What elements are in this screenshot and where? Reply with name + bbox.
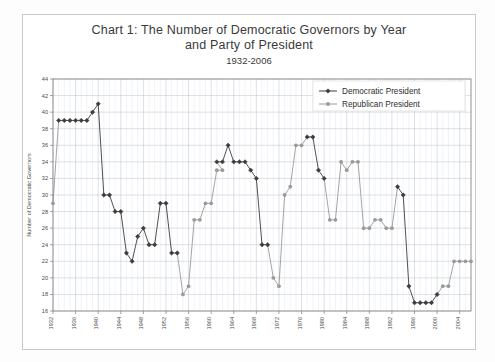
x-tick-label: 1956 <box>184 317 190 329</box>
data-point <box>107 193 111 197</box>
data-point <box>232 160 236 164</box>
y-tick-label: 32 <box>42 175 48 181</box>
data-point <box>469 259 473 263</box>
x-tick-label: 1992 <box>387 317 393 329</box>
data-point <box>209 201 213 205</box>
y-tick-label: 26 <box>42 225 48 231</box>
x-tick-label: 1960 <box>206 317 212 329</box>
x-tick-label: 1936 <box>71 317 77 329</box>
y-tick-label: 40 <box>42 109 48 115</box>
data-point <box>379 218 383 222</box>
x-tick-label: 1944 <box>116 317 122 329</box>
y-tick-label: 34 <box>42 159 48 165</box>
data-point <box>204 201 208 205</box>
data-point <box>147 243 151 247</box>
data-point <box>339 160 343 164</box>
data-point <box>350 160 354 164</box>
data-point <box>119 209 123 213</box>
data-point <box>164 201 168 205</box>
y-tick-label: 28 <box>42 209 48 215</box>
data-point <box>215 168 219 172</box>
data-point <box>113 209 117 213</box>
x-tick-label: 1996 <box>410 317 416 329</box>
data-point <box>458 259 462 263</box>
legend-label: Democratic President <box>342 87 421 96</box>
y-tick-label: 18 <box>42 291 48 297</box>
data-point <box>237 160 241 164</box>
y-tick-label: 44 <box>42 76 48 82</box>
data-point <box>181 293 185 297</box>
series-democratic-president <box>56 102 439 305</box>
data-point <box>226 143 230 147</box>
data-point <box>367 226 371 230</box>
chart-container: Chart 1: The Number of Democratic Govern… <box>22 14 476 350</box>
data-point <box>68 118 72 122</box>
legend-marker <box>326 102 330 106</box>
x-tick-label: 1988 <box>364 317 370 329</box>
data-point <box>447 284 451 288</box>
x-tick-label: 1984 <box>342 317 348 329</box>
data-point <box>62 118 66 122</box>
y-axis-title-text: Number of Democratic Governors <box>26 153 32 237</box>
data-point <box>356 160 360 164</box>
data-point <box>441 284 445 288</box>
x-axis-ticks: 1932193619401944194819521956196019641968… <box>48 311 461 329</box>
data-point <box>294 143 298 147</box>
y-tick-label: 42 <box>42 93 48 99</box>
x-tick-label: 2004 <box>455 317 461 329</box>
x-tick-label: 2000 <box>432 317 438 329</box>
chart-legend: Democratic PresidentRepublican President <box>313 81 465 111</box>
data-point <box>79 118 83 122</box>
data-point <box>152 243 156 247</box>
data-point <box>187 284 191 288</box>
x-tick-label: 1952 <box>161 317 167 329</box>
data-point <box>102 193 106 197</box>
data-point <box>452 259 456 263</box>
data-point <box>192 218 196 222</box>
data-point <box>283 193 287 197</box>
data-point <box>56 118 60 122</box>
x-tick-label: 1932 <box>48 317 54 329</box>
data-point <box>384 226 388 230</box>
data-point <box>265 243 269 247</box>
data-point <box>362 226 366 230</box>
data-point <box>51 201 55 205</box>
y-tick-label: 38 <box>42 126 48 132</box>
data-point <box>221 168 225 172</box>
data-point <box>175 251 179 255</box>
y-axis-ticks: 161820222426283032343638404244 <box>42 76 53 314</box>
data-point <box>412 301 416 305</box>
x-tick-label: 1964 <box>229 317 235 329</box>
page-root: Chart 1: The Number of Democratic Govern… <box>0 0 495 362</box>
data-point <box>334 218 338 222</box>
x-tick-label: 1948 <box>138 317 144 329</box>
data-point <box>407 284 411 288</box>
data-point <box>169 251 173 255</box>
data-point <box>73 118 77 122</box>
y-tick-label: 22 <box>42 258 48 264</box>
x-tick-label: 1976 <box>297 317 303 329</box>
y-tick-label: 24 <box>42 242 48 248</box>
data-point <box>418 301 422 305</box>
data-point <box>300 143 304 147</box>
y-tick-label: 16 <box>42 308 48 314</box>
data-point <box>288 185 292 189</box>
y-tick-label: 36 <box>42 142 48 148</box>
data-point <box>424 301 428 305</box>
data-point <box>311 135 315 139</box>
data-point <box>260 243 264 247</box>
data-point <box>215 160 219 164</box>
data-point <box>305 135 309 139</box>
x-tick-label: 1972 <box>274 317 280 329</box>
y-tick-label: 30 <box>42 192 48 198</box>
y-axis-title: Number of Democratic Governors <box>26 153 32 237</box>
x-tick-label: 1980 <box>319 317 325 329</box>
data-point <box>158 201 162 205</box>
y-tick-label: 20 <box>42 275 48 281</box>
data-point <box>463 259 467 263</box>
data-point <box>220 160 224 164</box>
plot-area-wrapper: 161820222426283032343638404244 193219361… <box>23 15 475 349</box>
line-chart-svg: 161820222426283032343638404244 193219361… <box>23 15 475 349</box>
x-tick-label: 1968 <box>251 317 257 329</box>
x-tick-label: 1940 <box>93 317 99 329</box>
